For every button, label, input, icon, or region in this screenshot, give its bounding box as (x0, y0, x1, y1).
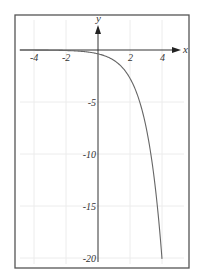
y-tick-label: -10 (83, 149, 96, 160)
x-axis-label: x (182, 43, 188, 55)
x-tick-label: 4 (160, 52, 165, 63)
y-tick-label: -15 (83, 201, 96, 212)
y-axis-label: y (95, 12, 101, 24)
chart: x y -4 -2 2 4 -5 -10 -15 -20 (0, 0, 197, 277)
y-tick-label: -5 (88, 97, 96, 108)
y-tick-label: -20 (83, 253, 96, 264)
x-tick-label: -2 (62, 52, 70, 63)
x-tick-label: -4 (30, 52, 38, 63)
x-tick-label: 2 (128, 52, 133, 63)
